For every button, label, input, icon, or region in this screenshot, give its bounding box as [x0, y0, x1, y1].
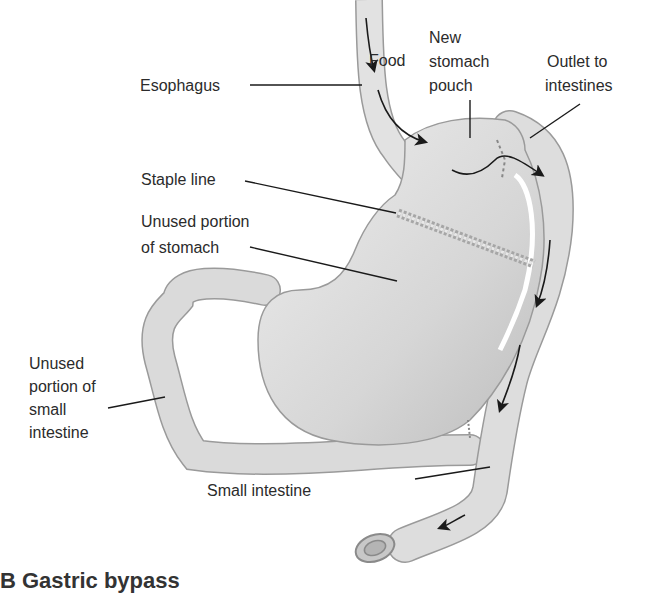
label-new-pouch-2: stomach	[429, 52, 489, 71]
label-esophagus: Esophagus	[140, 76, 220, 95]
label-unused-stomach-1: Unused portion	[141, 212, 250, 231]
label-unused-intestine-4: intestine	[29, 423, 89, 442]
label-new-pouch-1: New	[429, 28, 461, 47]
label-staple-line: Staple line	[141, 170, 216, 189]
label-small-intestine: Small intestine	[207, 481, 311, 500]
label-unused-intestine-2: portion of	[29, 377, 96, 396]
label-outlet-1: Outlet to	[547, 52, 607, 71]
label-unused-intestine-3: small	[29, 400, 66, 419]
label-unused-intestine-1: Unused	[29, 354, 84, 373]
label-outlet-2: intestines	[545, 76, 613, 95]
label-food: Food	[369, 51, 405, 70]
figure-caption: B Gastric bypass	[0, 568, 180, 594]
label-unused-stomach-2: of stomach	[141, 238, 219, 257]
label-new-pouch-3: pouch	[429, 76, 473, 95]
